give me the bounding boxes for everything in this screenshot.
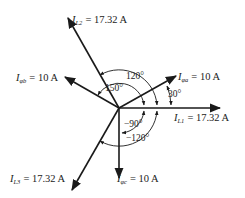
label-Iphia: Iφa= 10 A [177, 71, 220, 83]
label-IL2: IL2= 17.32 A [71, 14, 128, 26]
angle-label-minus-90: −90° [124, 119, 143, 129]
phasor-diagram: 120° 150° 30° −90° −120° IL2= 17.32 A Iφ… [0, 0, 245, 198]
label-IL1: IL1= 17.32 A [173, 112, 230, 124]
angle-label-150: 150° [105, 83, 123, 93]
label-IL3: IL3= 17.32 A [9, 173, 66, 185]
label-Iphib: Iφb= 10 A [15, 72, 58, 84]
angle-label-minus-120: −120° [126, 133, 150, 143]
angle-label-120: 120° [126, 71, 144, 81]
label-Iphic: Iφc= 10 A [116, 173, 159, 185]
phasor-IL2-arrow [68, 18, 119, 108]
phasor-IL3-arrow [72, 108, 119, 190]
angle-label-30: 30° [168, 89, 182, 99]
